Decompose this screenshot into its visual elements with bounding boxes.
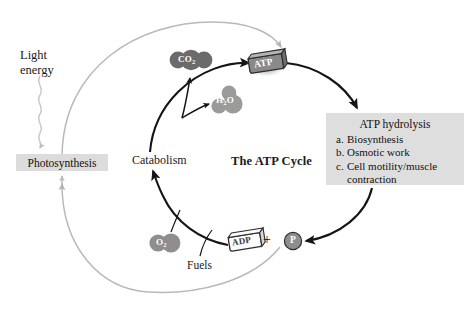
hydrolysis-item-text: Osmotic work [347,146,458,159]
hydrolysis-item: b. Osmotic work [332,146,458,159]
hydrolysis-item-text: Biosynthesis [347,133,458,146]
photosynthesis-label: Photosynthesis [27,157,96,169]
hydrolysis-item: c. Cell motility/muscle contraction [332,160,458,187]
oxygen-pointer-line [171,210,180,232]
photosynthesis-box: Photosynthesis [16,154,108,171]
atp-cycle-figure: Light energy Photosynthesis Catabolism T… [0,0,470,309]
hydrolysis-item-text: Cell motility/muscle contraction [347,160,458,187]
catabolism-arc-lower [153,171,228,245]
atp-hydrolysis-panel: ATP hydrolysis a. Biosynthesis b. Osmoti… [326,113,464,185]
o2-label: O2 [156,237,167,247]
co2-formula: CO [178,54,192,64]
catabolism-label: Catabolism [132,154,187,167]
hydrolysis-to-phosphate-arrow [306,188,372,241]
co2-subscript: 2 [192,58,195,65]
h2o-suffix: O [227,95,234,105]
h2o-subscript: 2 [223,99,226,106]
fuels-label: Fuels [187,259,212,272]
co2-label: CO2 [178,54,195,64]
catabolism-to-h2o-arrow [182,104,209,118]
atp-hydrolysis-title: ATP hydrolysis [332,118,458,130]
atp-to-hydrolysis-arrow [286,63,357,108]
light-energy-wave-arrow [39,76,42,148]
h2o-label: H2O [216,95,234,105]
hydrolysis-item-marker: a. [332,133,347,146]
plus-sign: + [263,232,271,248]
hydrolysis-item-marker: b. [332,146,347,159]
hydrolysis-item: a. Biosynthesis [332,133,458,146]
photosynthesis-to-atp-arc [62,22,281,158]
light-energy-label: Light energy [20,48,80,78]
page-title: The ATP Cycle [231,154,312,168]
o2-subscript: 2 [163,241,166,248]
hydrolysis-item-marker: c. [332,160,347,187]
phosphate-label: P [290,235,296,245]
fuels-pointer-line [200,230,212,256]
